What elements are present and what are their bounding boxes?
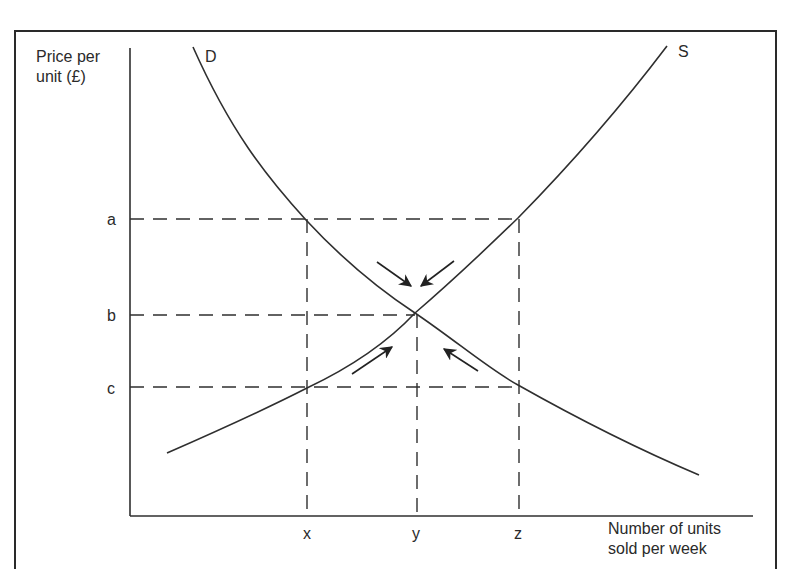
demand-curve: [193, 47, 699, 475]
supply-label: S: [678, 43, 689, 60]
guide-lines: [130, 219, 519, 516]
demand-label: D: [205, 48, 217, 65]
price-label-c: c: [107, 380, 115, 397]
y-axis-label-line1: Price per: [36, 48, 101, 65]
x-axis-label-line2: sold per week: [608, 540, 708, 557]
price-label-b: b: [107, 307, 116, 324]
x-axis-label-line1: Number of units: [608, 520, 721, 537]
y-axis-label-line2: unit (£): [36, 68, 86, 85]
equilibrium-arrows: [352, 261, 478, 374]
arrow-icon: [444, 349, 478, 371]
price-label-a: a: [107, 211, 116, 228]
supply-demand-diagram: Price per unit (£) Number of units sold …: [0, 0, 792, 569]
arrow-icon: [377, 262, 411, 286]
quantity-label-x: x: [303, 525, 311, 542]
quantity-label-z: z: [514, 525, 522, 542]
quantity-label-y: y: [412, 525, 420, 542]
